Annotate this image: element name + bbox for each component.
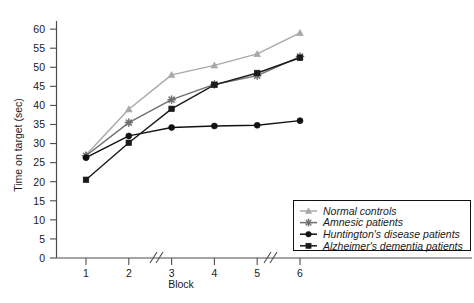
x-tick-label: 5 (254, 267, 260, 279)
data-point (83, 155, 89, 161)
y-tick-label: 55 (33, 42, 45, 54)
line-chart: Time on target (sec) 0510152025303540455… (0, 0, 474, 303)
data-point (254, 122, 260, 128)
data-point (169, 106, 175, 112)
legend: Normal controlsAmnesic patientsHuntingto… (294, 201, 471, 252)
y-tick-label: 30 (33, 137, 45, 149)
data-point (212, 82, 218, 88)
data-point (126, 140, 132, 146)
legend-label: Alzheimer's dementia patients (322, 240, 463, 252)
legend-marker-circle-icon (306, 231, 312, 237)
y-tick-label: 50 (33, 61, 45, 73)
y-tick-label: 20 (33, 176, 45, 188)
x-tick-label: 4 (211, 267, 217, 279)
data-point (126, 133, 132, 139)
legend-marker-star-icon (305, 219, 312, 226)
y-tick-label: 15 (33, 195, 45, 207)
y-tick-label: 45 (33, 80, 45, 92)
x-tick-label: 2 (126, 267, 132, 279)
data-point (83, 177, 89, 183)
x-tick-label: 6 (297, 267, 303, 279)
legend-label: Amnesic patients (322, 216, 404, 228)
legend-item-3[interactable]: Huntington's disease patients (300, 228, 461, 240)
y-tick-label: 10 (33, 214, 45, 226)
y-tick-label: 60 (33, 23, 45, 35)
y-tick-label: 35 (33, 118, 45, 130)
data-point (297, 55, 303, 61)
legend-label: Huntington's disease patients (323, 228, 461, 240)
x-tick-label: 1 (83, 267, 89, 279)
y-tick-label: 5 (39, 233, 45, 245)
data-point (297, 118, 303, 124)
legend-marker-square-icon (306, 243, 311, 248)
y-tick-label: 0 (39, 252, 45, 264)
y-axis-label: Time on target (sec) (12, 98, 24, 192)
legend-label: Normal controls (323, 205, 397, 217)
data-point (211, 123, 217, 129)
data-point (125, 119, 132, 126)
legend-item-4[interactable]: Alzheimer's dementia patients (300, 240, 463, 252)
x-axis-label: Block (168, 278, 194, 290)
y-tick-label: 25 (33, 156, 45, 168)
data-point (254, 70, 260, 76)
y-tick-label: 40 (33, 99, 45, 111)
data-point (168, 96, 175, 103)
data-point (169, 125, 175, 131)
